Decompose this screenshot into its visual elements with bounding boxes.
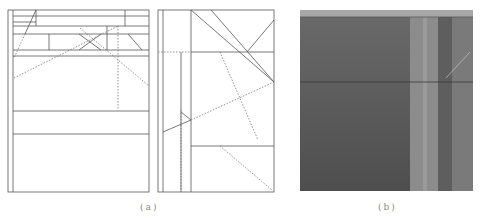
panel-a-left-dotted (14, 26, 149, 110)
caption-a: (a) (140, 202, 158, 212)
caption-b: (b) (378, 202, 397, 212)
panel-a-left-drawing (8, 10, 149, 192)
panel-a-right-dotted (158, 52, 274, 190)
panel-b-photo (300, 10, 473, 191)
panel-a-right-drawing (158, 10, 274, 192)
figure-canvas (0, 0, 482, 218)
